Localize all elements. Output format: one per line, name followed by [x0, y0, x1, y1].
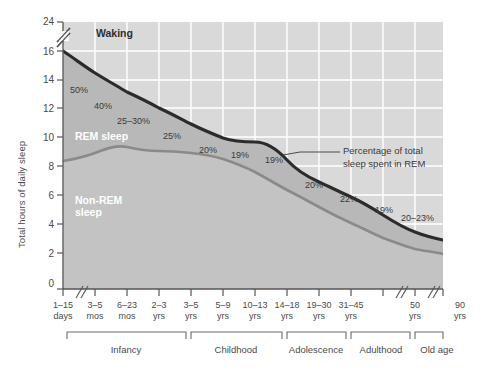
x-tick-label-9: 31–45 yrs: [329, 300, 373, 321]
band-label-rem-sleep: REM sleep: [75, 130, 128, 142]
x-axis-ticks: [63, 289, 443, 296]
pct-label-7: 20%: [305, 180, 323, 190]
pct-label-1: 40%: [94, 101, 112, 111]
rem-percentage-annotation: Percentage of total sleep spent in REM: [343, 145, 425, 170]
life-stage-label-adulthood: Adulthood: [348, 344, 414, 355]
life-stage-brackets: [67, 332, 443, 339]
band-label-waking: Waking: [96, 27, 133, 39]
sleep-across-lifespan-chart: Total hours of daily sleep 24 16 14 12 1…: [0, 0, 483, 379]
life-stage-label-old-age: Old age: [409, 344, 465, 355]
pct-label-4: 20%: [199, 145, 217, 155]
pct-label-9: 19%: [375, 205, 393, 215]
life-stage-label-adolescence: Adolescence: [281, 344, 351, 355]
pct-label-10: 20–23%: [401, 213, 434, 223]
x-tick-label-10: 50 yrs: [393, 300, 437, 321]
pct-label-6: 19%: [265, 155, 283, 165]
pct-label-2: 25–30%: [117, 116, 150, 126]
life-stage-label-infancy: Infancy: [96, 344, 156, 355]
pct-label-8: 22%: [340, 194, 358, 204]
pct-label-5: 19%: [231, 150, 249, 160]
x-tick-label-11: 90 yrs: [443, 300, 477, 321]
pct-label-3: 25%: [163, 131, 181, 141]
band-label-non-rem-sleep: Non-REM sleep: [75, 194, 122, 218]
plot-area: [0, 0, 483, 379]
life-stage-label-childhood: Childhood: [206, 344, 266, 355]
y-axis-ticks: [57, 22, 63, 289]
pct-label-0: 50%: [70, 85, 88, 95]
